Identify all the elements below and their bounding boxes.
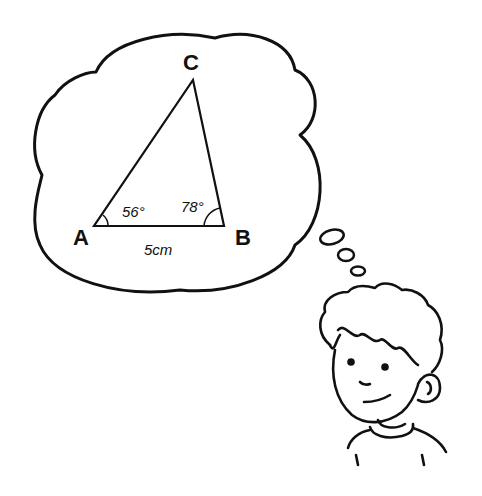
boy-figure	[320, 284, 446, 465]
thought-bubble-medium	[338, 249, 354, 261]
boy-collar	[370, 424, 413, 437]
boy-shoulder-right	[413, 428, 446, 452]
boy-nose	[360, 382, 370, 385]
angle-a-value: 56°	[122, 203, 145, 220]
thought-bubble-small	[351, 267, 365, 276]
vertex-label-a: A	[73, 225, 89, 250]
boy-mouth	[364, 395, 390, 402]
boy-face	[333, 350, 418, 422]
boy-shoulder-left	[348, 430, 370, 448]
vertex-label-b: B	[235, 225, 251, 250]
angle-b-value: 78°	[181, 198, 204, 215]
boy-ear	[418, 375, 440, 402]
angle-arc-a	[103, 215, 108, 226]
angle-arc-b	[204, 208, 220, 226]
vertex-label-c: C	[183, 50, 199, 75]
boy-hair	[320, 284, 442, 372]
triangle-abc	[94, 80, 224, 226]
boy-eye-right	[383, 365, 388, 370]
side-ab-length: 5cm	[144, 241, 172, 258]
illustration-canvas: C A B 56° 78° 5cm	[0, 0, 482, 496]
thought-bubble-large	[319, 227, 346, 247]
thought-cloud	[35, 35, 320, 292]
boy-eye-left	[349, 360, 354, 365]
